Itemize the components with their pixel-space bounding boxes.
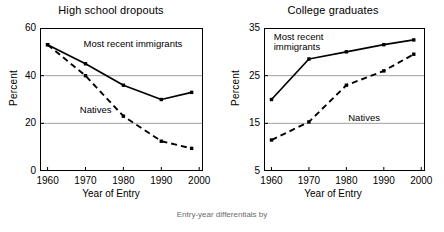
data-point-marker xyxy=(382,43,385,46)
series-annotation: Natives xyxy=(80,105,112,116)
series-line xyxy=(48,45,192,100)
x-tick-label: 1970 xyxy=(289,175,329,186)
panel-title: High school dropouts xyxy=(0,4,222,16)
series-annotation: Most recent immigrants xyxy=(274,32,324,53)
y-tick-label: 20 xyxy=(14,117,36,128)
data-point-marker xyxy=(345,50,348,53)
x-tick-label: 1990 xyxy=(141,175,181,186)
x-tick-label: 1980 xyxy=(326,175,366,186)
series-line xyxy=(48,45,192,149)
figure-caption: Entry-year differentials by xyxy=(0,210,444,219)
data-point-marker xyxy=(46,43,49,46)
chart-panel-college-graduates: College graduates Percent Year of Entry … xyxy=(222,0,444,205)
data-point-marker xyxy=(412,38,415,41)
plot-frame xyxy=(41,29,203,171)
data-point-marker xyxy=(160,98,163,101)
data-point-marker xyxy=(270,138,273,141)
y-tick-label: 0 xyxy=(14,165,36,176)
series-annotation: Natives xyxy=(348,113,380,124)
data-point-marker xyxy=(307,120,310,123)
y-tick-label: 35 xyxy=(238,22,260,33)
x-axis-label: Year of Entry xyxy=(0,188,222,199)
y-tick-label: 15 xyxy=(238,117,260,128)
plot-area xyxy=(40,28,203,171)
data-point-marker xyxy=(84,62,87,65)
data-point-marker xyxy=(270,98,273,101)
x-tick-label: 1960 xyxy=(28,175,68,186)
data-point-marker xyxy=(190,91,193,94)
data-point-marker xyxy=(412,53,415,56)
data-point-marker xyxy=(382,69,385,72)
data-point-marker xyxy=(160,140,163,143)
chart-panels: High school dropouts Percent Year of Ent… xyxy=(0,0,444,205)
x-tick-label: 1970 xyxy=(65,175,105,186)
data-point-marker xyxy=(345,84,348,87)
x-tick-label: 1960 xyxy=(251,175,291,186)
x-axis-label: Year of Entry xyxy=(222,188,444,199)
x-tick-label: 2000 xyxy=(401,175,441,186)
x-tick-label: 1980 xyxy=(103,175,143,186)
chart-panel-high-school-dropouts: High school dropouts Percent Year of Ent… xyxy=(0,0,222,205)
y-tick-label: 25 xyxy=(238,70,260,81)
series-annotation: Most recent immigrants xyxy=(84,39,183,50)
y-tick-label: 40 xyxy=(14,70,36,81)
data-point-marker xyxy=(307,57,310,60)
x-tick-label: 2000 xyxy=(179,175,219,186)
data-point-marker xyxy=(122,114,125,117)
y-tick-label: 5 xyxy=(238,165,260,176)
data-point-marker xyxy=(190,147,193,150)
series-line xyxy=(271,54,413,140)
data-point-marker xyxy=(122,84,125,87)
x-tick-label: 1990 xyxy=(364,175,404,186)
panel-title: College graduates xyxy=(222,4,444,16)
figure-root: High school dropouts Percent Year of Ent… xyxy=(0,0,444,232)
data-point-marker xyxy=(84,74,87,77)
plot-svg xyxy=(40,28,203,171)
y-tick-label: 60 xyxy=(14,22,36,33)
